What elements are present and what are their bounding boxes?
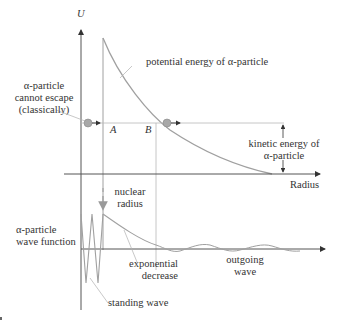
nuclear-radius-label: nuclear radius [110, 186, 150, 210]
wave-function-line: wave function [16, 236, 76, 248]
nuclear-radius-line: radius [110, 198, 150, 210]
alpha-particle-outside [163, 119, 171, 127]
standing-wave-label: standing wave [108, 297, 168, 309]
wave-function-label: α-particle wave function [16, 224, 76, 248]
kinetic-label-line: kinetic energy of [248, 138, 320, 150]
exponential-curve [103, 214, 156, 245]
exponential-label: exponential decrease [116, 258, 178, 282]
left-annotation-line: (classically) [14, 104, 74, 116]
outgoing-line: wave [220, 266, 270, 278]
radius-axis-label: Radius [290, 179, 319, 191]
left-annotation-line: α-particle [14, 80, 74, 92]
outgoing-line: outgoing [220, 254, 270, 266]
outgoing-wave [156, 244, 300, 251]
exponential-line: exponential [116, 258, 178, 270]
left-annotation-line: cannot escape [14, 92, 74, 104]
outgoing-wave-label: outgoing wave [220, 254, 270, 278]
kinetic-label-line: α-particle [248, 150, 320, 162]
point-b-label: B [145, 124, 151, 136]
curve-label: potential energy of α-particle [146, 56, 268, 68]
left-annotation: α-particle cannot escape (classically) [14, 80, 74, 116]
kinetic-energy-label: kinetic energy of α-particle [248, 138, 320, 162]
nuclear-radius-line: nuclear [110, 186, 150, 198]
point-a-label: A [110, 124, 116, 136]
wave-function-line: α-particle [16, 224, 76, 236]
u-axis-label: U [77, 8, 85, 20]
exponential-line: decrease [116, 270, 178, 282]
alpha-particle-inside [84, 119, 92, 127]
